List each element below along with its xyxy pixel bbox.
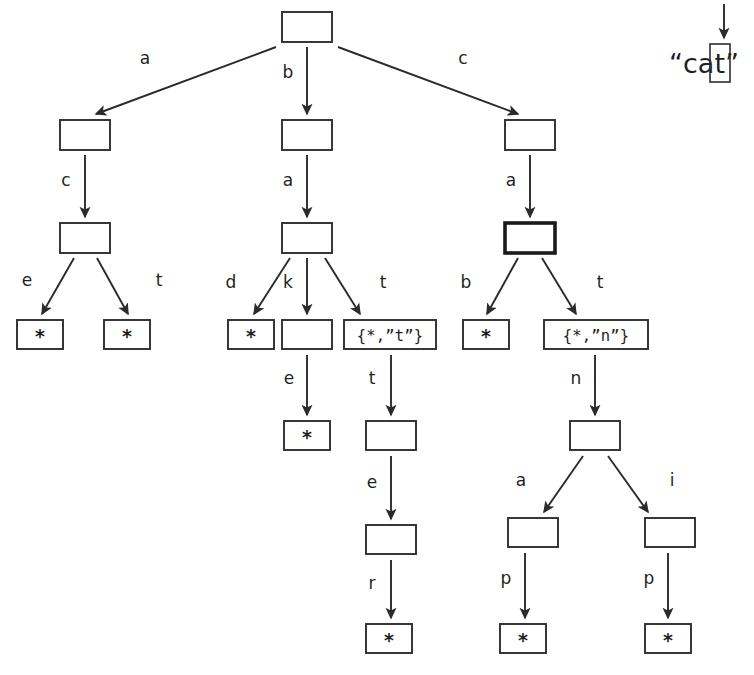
- edge-p: p: [501, 553, 525, 618]
- edge-d: d: [226, 258, 290, 314]
- edge-c: c: [338, 47, 518, 114]
- trie-node-n_ca[interactable]: [505, 223, 555, 253]
- edge-label: a: [140, 48, 150, 68]
- trie-node-n_catnap[interactable]: *: [500, 624, 546, 653]
- trie-node-n_act[interactable]: *: [104, 320, 150, 349]
- edge-label: i: [670, 470, 675, 490]
- edge-r: r: [369, 560, 392, 618]
- node-box[interactable]: [282, 223, 332, 253]
- trie-node-n_a[interactable]: [60, 120, 110, 150]
- node-terminal-marker: *: [517, 629, 528, 651]
- edge-label: p: [501, 568, 512, 588]
- trie-node-n_bak[interactable]: [282, 320, 332, 349]
- edge-label: d: [226, 272, 237, 292]
- trie-node-n_batter[interactable]: *: [366, 624, 412, 653]
- trie-node-n_cab[interactable]: *: [463, 320, 509, 349]
- edge-i: i: [608, 456, 674, 512]
- edge-label: b: [461, 272, 472, 292]
- node-box[interactable]: [282, 320, 332, 349]
- node-box[interactable]: [570, 421, 620, 450]
- edge-label: a: [516, 470, 526, 490]
- node-terminal-marker: *: [245, 325, 256, 347]
- node-set-label: {*,”t”}: [357, 327, 424, 345]
- trie-node-n_ac[interactable]: [60, 223, 110, 253]
- edge-k: k: [283, 258, 307, 314]
- edge-label: p: [644, 568, 655, 588]
- edge-arrow: [42, 258, 74, 314]
- node-box-highlighted[interactable]: [505, 223, 555, 253]
- node-box[interactable]: [508, 518, 558, 547]
- edge-arrow: [608, 456, 648, 512]
- trie-node-n_catna[interactable]: [508, 518, 558, 547]
- node-box[interactable]: [366, 421, 416, 450]
- trie-node-n_bat[interactable]: {*,”t”}: [344, 320, 436, 349]
- edge-arrow: [542, 258, 576, 314]
- nodes-layer: ***{*,”t”}*{*,”n”}****: [17, 12, 695, 653]
- trie-node-n_catn[interactable]: [570, 421, 620, 450]
- trie-canvas: abccaaetdktbtetneairpp ***{*,”t”}*{*,”n”…: [0, 0, 754, 675]
- edge-label: e: [284, 368, 294, 388]
- edge-arrow: [338, 47, 518, 114]
- trie-node-n_b[interactable]: [282, 120, 332, 150]
- edge-a: a: [506, 155, 530, 217]
- trie-node-n_ba[interactable]: [282, 223, 332, 253]
- edge-label: e: [367, 472, 377, 492]
- edge-n: n: [571, 355, 595, 415]
- edge-arrow: [325, 258, 360, 314]
- trie-node-n_cat[interactable]: {*,”n”}: [544, 320, 648, 349]
- node-box[interactable]: [282, 120, 332, 150]
- node-terminal-marker: *: [301, 426, 312, 448]
- edge-t: t: [542, 258, 604, 314]
- edge-e: e: [22, 258, 74, 314]
- edge-arrow: [97, 258, 128, 314]
- edge-label: t: [156, 270, 163, 290]
- edge-arrow: [544, 456, 583, 512]
- edge-p: p: [644, 553, 668, 618]
- node-terminal-marker: *: [121, 325, 132, 347]
- edge-t: t: [369, 355, 391, 415]
- node-box[interactable]: [60, 223, 110, 253]
- edge-a: a: [283, 155, 307, 217]
- edge-label: e: [22, 270, 32, 290]
- trie-diagram: abccaaetdktbtetneairpp ***{*,”t”}*{*,”n”…: [0, 0, 754, 675]
- node-terminal-marker: *: [480, 325, 491, 347]
- node-terminal-marker: *: [383, 629, 394, 651]
- trie-node-n_catnip[interactable]: *: [645, 624, 691, 653]
- edge-label: a: [283, 170, 293, 190]
- trie-node-root[interactable]: [282, 12, 332, 42]
- edge-b: b: [461, 258, 518, 314]
- node-box[interactable]: [366, 525, 416, 554]
- edge-arrow: [96, 47, 276, 114]
- node-terminal-marker: *: [662, 629, 673, 651]
- edge-e: e: [284, 355, 307, 415]
- edge-label: t: [597, 272, 604, 292]
- edge-label: r: [369, 573, 376, 593]
- trie-node-n_catni[interactable]: [645, 518, 695, 547]
- trie-node-n_batte[interactable]: [366, 525, 416, 554]
- node-box[interactable]: [645, 518, 695, 547]
- edge-label: a: [506, 170, 516, 190]
- trie-node-n_ace[interactable]: *: [17, 320, 63, 349]
- trie-node-n_c[interactable]: [505, 120, 555, 150]
- trie-node-n_bake[interactable]: *: [284, 421, 330, 450]
- edge-a: a: [516, 456, 583, 512]
- edge-a: a: [96, 47, 276, 114]
- edge-label: b: [283, 62, 294, 82]
- node-box[interactable]: [282, 12, 332, 42]
- node-box[interactable]: [505, 120, 555, 150]
- edge-t: t: [325, 258, 387, 314]
- edge-label: t: [369, 368, 376, 388]
- node-terminal-marker: *: [34, 325, 45, 347]
- edge-t: t: [97, 258, 163, 314]
- edge-label: n: [571, 368, 582, 388]
- edge-label: t: [380, 272, 387, 292]
- edge-c: c: [61, 155, 85, 217]
- edge-b: b: [283, 47, 307, 114]
- trie-node-n_batt[interactable]: [366, 421, 416, 450]
- trie-node-n_bad[interactable]: *: [228, 320, 274, 349]
- edge-arrow: [487, 258, 518, 314]
- edge-label: k: [283, 272, 293, 292]
- edge-label: c: [458, 48, 467, 68]
- node-box[interactable]: [60, 120, 110, 150]
- input-string: “cat”: [669, 48, 739, 79]
